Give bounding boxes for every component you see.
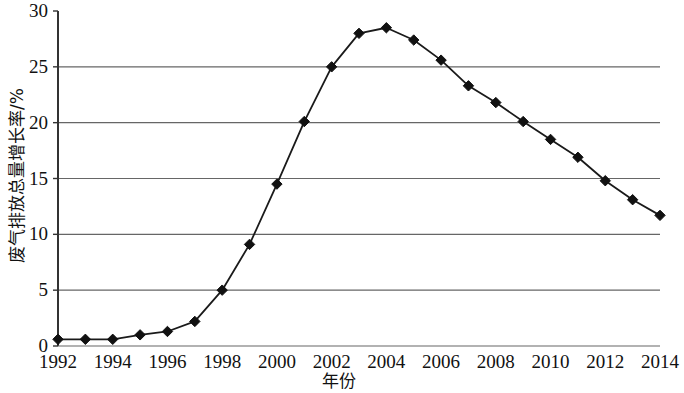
data-point-marker [80,334,90,344]
data-point-marker [518,116,528,126]
data-point-marker [162,326,172,336]
data-point-marker [655,210,665,220]
series-line [58,28,660,340]
x-axis-title-text: 年份 [322,371,356,391]
data-point-marker [244,239,254,249]
data-point-marker [299,116,309,126]
data-point-marker [545,134,555,144]
data-point-marker [272,179,282,189]
data-point-marker [108,334,118,344]
data-point-marker [381,23,391,33]
series-markers [53,23,665,345]
x-axis-title: 年份 [0,372,677,390]
data-point-marker [491,97,501,107]
data-point-marker [53,334,63,344]
data-line [58,28,660,340]
data-point-marker [627,195,637,205]
data-point-marker [135,330,145,340]
gridlines [58,67,660,290]
